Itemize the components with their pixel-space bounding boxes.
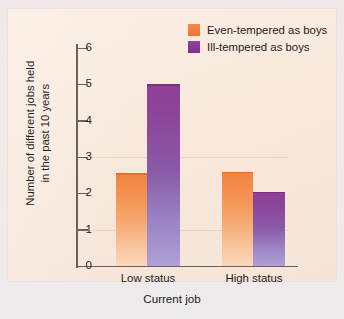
y-tick-label-5: 5 (70, 78, 92, 90)
legend-item-ill-tempered: Ill-tempered as boys (188, 41, 327, 53)
y-axis-title-line-1: Number of different jobs held (23, 33, 38, 233)
purple-swatch-icon (188, 41, 200, 53)
plot-area: 6 5 4 3 2 1 0 Number of different jobs h… (0, 0, 344, 319)
bar-low-status-ill-tempered (147, 84, 180, 266)
y-axis-title: Number of different jobs held in the pas… (23, 33, 54, 233)
y-tick-label-4: 4 (70, 115, 92, 127)
bar-high-status-even-tempered (222, 172, 253, 267)
y-tick-label-0: 0 (70, 260, 92, 272)
bar-cap (222, 172, 253, 174)
x-category-label-low-status: Low status (98, 272, 198, 284)
y-tick-label-3: 3 (70, 151, 92, 163)
chart-legend: Even-tempered as boys Ill-tempered as bo… (188, 24, 327, 58)
legend-label-even-tempered: Even-tempered as boys (207, 24, 327, 36)
bar-high-status-ill-tempered (253, 192, 285, 267)
y-tick-label-1: 1 (70, 224, 92, 236)
x-axis-title: Current job (0, 292, 344, 305)
y-tick-label-2: 2 (70, 187, 92, 199)
x-category-label-high-status: High status (204, 272, 304, 284)
bar-cap (253, 192, 285, 194)
orange-swatch-icon (188, 24, 200, 36)
bar-cap (116, 173, 147, 175)
y-axis-title-line-2: in the past 10 years (38, 33, 53, 233)
legend-item-even-tempered: Even-tempered as boys (188, 24, 327, 36)
grid-line-3 (78, 157, 288, 158)
bar-cap (147, 84, 180, 86)
legend-label-ill-tempered: Ill-tempered as boys (207, 41, 310, 53)
bar-low-status-even-tempered (116, 173, 147, 266)
chart-figure: 6 5 4 3 2 1 0 Number of different jobs h… (0, 0, 344, 319)
y-tick-label-6: 6 (70, 42, 92, 54)
